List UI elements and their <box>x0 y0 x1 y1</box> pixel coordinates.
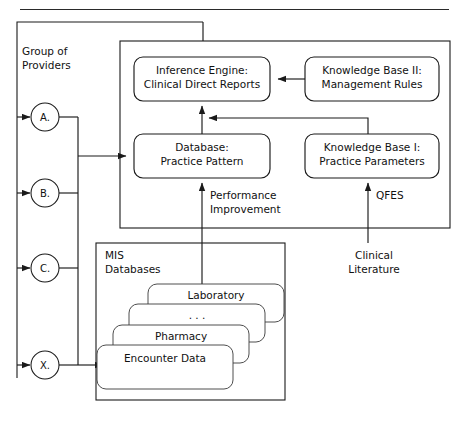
arrow-kb1-to-inference-path <box>209 118 368 134</box>
box-knowledge-base-i-line2: Practice Parameters <box>319 155 424 167</box>
mis-card-ellipsis-label: . . . <box>189 309 206 321</box>
box-knowledge-base-ii-line2: Management Rules <box>322 78 423 90</box>
provider-node-x-label: X. <box>40 360 50 371</box>
label-qfes: QFES <box>376 189 404 201</box>
figure-canvas: Group of Providers A. B. C. X. Inference… <box>0 0 469 427</box>
box-knowledge-base-ii-line1: Knowledge Base II: <box>322 64 422 76</box>
mis-card-laboratory-label: Laboratory <box>187 289 244 301</box>
mis-title-line1: MIS <box>105 249 124 261</box>
mis-card-encounter-data-label: Encounter Data <box>124 352 206 364</box>
providers-group-label-line2: Providers <box>22 59 71 71</box>
box-database-line2: Practice Pattern <box>160 155 243 167</box>
providers-group-label-line1: Group of <box>22 45 68 57</box>
label-performance-improvement-line1: Performance <box>210 189 277 201</box>
provider-node-c-label: C. <box>40 263 50 274</box>
label-clinical-literature-line1: Clinical <box>355 249 393 261</box>
mis-card-pharmacy-label: Pharmacy <box>155 330 207 342</box>
label-clinical-literature-line2: Literature <box>348 263 399 275</box>
provider-node-a-label: A. <box>40 112 50 123</box>
box-inference-engine-line2: Clinical Direct Reports <box>144 78 260 90</box>
diagram-svg: Group of Providers A. B. C. X. Inference… <box>0 0 469 427</box>
provider-node-b-label: B. <box>40 188 50 199</box>
label-performance-improvement-line2: Improvement <box>210 203 281 215</box>
mis-title-line2: Databases <box>105 263 161 275</box>
box-inference-engine-line1: Inference Engine: <box>156 64 248 76</box>
box-knowledge-base-i-line1: Knowledge Base I: <box>324 141 421 153</box>
box-database-line1: Database: <box>175 141 229 153</box>
